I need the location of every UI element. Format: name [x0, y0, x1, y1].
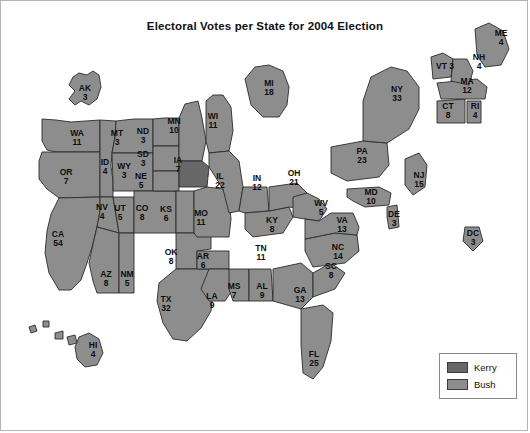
state-mt: [112, 119, 153, 153]
state-sc: [313, 263, 345, 297]
state-ks: [176, 191, 194, 233]
state-wa: [42, 119, 100, 152]
state-nj: [405, 153, 427, 195]
state-ar: [197, 251, 229, 269]
state-wy: [112, 153, 153, 191]
legend-swatch-kerry: [447, 362, 468, 373]
legend-label-kerry: Kerry: [474, 362, 497, 373]
state-ak: [69, 71, 101, 105]
hawaii-islet-1: [29, 325, 37, 333]
hawaii-islet-3: [55, 331, 63, 339]
electoral-map-figure: Electoral Votes per State for 2004 Elect…: [0, 0, 528, 431]
state-nd: [153, 118, 179, 146]
state-sd: [153, 146, 179, 171]
state-shapes-layer: [29, 23, 509, 379]
state-dc: [463, 227, 483, 251]
state-ct: [437, 99, 465, 123]
state-ny: [363, 67, 419, 143]
state-mi: [245, 65, 289, 117]
state-mn: [179, 101, 206, 161]
state-de: [387, 205, 399, 229]
state-nh: [451, 59, 473, 85]
state-ne: [153, 171, 179, 191]
state-ga: [273, 263, 313, 309]
state-al: [249, 269, 273, 301]
legend-label-bush: Bush: [474, 379, 496, 390]
state-co: [134, 191, 176, 233]
state-in: [239, 187, 269, 213]
state-pa: [331, 141, 389, 181]
state-wv: [293, 193, 327, 221]
legend: Kerry Bush: [439, 353, 517, 399]
state-fl: [301, 305, 333, 379]
state-nc: [305, 233, 359, 267]
hawaii-islet-4: [67, 335, 77, 345]
state-vt: [431, 53, 453, 79]
legend-item-kerry: Kerry: [447, 359, 516, 376]
state-me: [475, 23, 509, 67]
legend-swatch-bush: [447, 379, 468, 390]
state-ms: [229, 269, 249, 301]
hawaii-islet-2: [43, 321, 49, 327]
state-ia: [179, 161, 209, 187]
legend-item-bush: Bush: [447, 376, 516, 393]
state-wi: [206, 95, 233, 153]
state-hi: [75, 333, 103, 367]
state-md: [347, 187, 391, 207]
state-or: [39, 152, 100, 198]
state-nm: [119, 233, 134, 293]
state-ri: [467, 101, 481, 123]
